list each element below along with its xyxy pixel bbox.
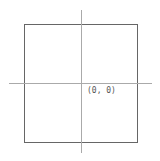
origin-label: (0, 0): [87, 86, 116, 95]
diagram-canvas: (0, 0): [0, 0, 160, 161]
diagram-svg: [0, 0, 160, 161]
